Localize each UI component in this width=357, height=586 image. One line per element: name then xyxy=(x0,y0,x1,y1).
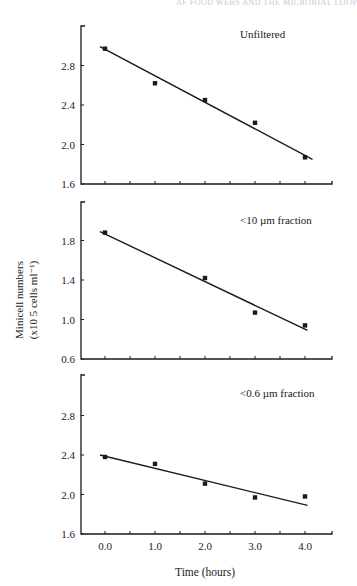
y-tick-label: 1.6 xyxy=(61,528,75,540)
x-tick-label: 2.0 xyxy=(198,540,212,552)
y-tick-label: 2.4 xyxy=(61,449,75,461)
x-tick-label: 4.0 xyxy=(298,540,312,552)
panel-3: 1.62.02.42.8<0.6 µm fraction xyxy=(61,375,332,540)
panel-2: 0.61.01.41.8<10 µm fraction xyxy=(61,202,332,365)
data-point-marker xyxy=(253,495,257,499)
panel-title: <10 µm fraction xyxy=(240,214,312,226)
data-point-marker xyxy=(103,47,107,51)
data-point-marker xyxy=(203,276,207,280)
y-tick-label: 2.8 xyxy=(61,410,75,422)
data-point-marker xyxy=(303,323,307,327)
data-point-marker xyxy=(253,310,257,314)
data-point-marker xyxy=(153,81,157,85)
data-point-marker xyxy=(303,494,307,498)
y-tick-label: 2.0 xyxy=(61,489,75,501)
panel-title: Unfiltered xyxy=(240,28,286,40)
y-tick-label: 0.6 xyxy=(61,353,75,365)
y-tick-label: 2.8 xyxy=(61,60,75,72)
data-point-marker xyxy=(303,155,307,159)
panel-title: <0.6 µm fraction xyxy=(240,387,315,399)
x-tick-label: 3.0 xyxy=(248,540,262,552)
x-tick-label: 0.0 xyxy=(98,540,112,552)
y-tick-label: 2.4 xyxy=(61,99,75,111)
data-point-marker xyxy=(153,462,157,466)
data-point-marker xyxy=(103,455,107,459)
data-point-marker xyxy=(253,121,257,125)
trend-line xyxy=(100,455,308,505)
y-axis-label-line1: Minicell numbers xyxy=(12,261,26,339)
y-tick-label: 2.0 xyxy=(61,139,75,151)
y-axis-label-line2: (x10 5 cells ml⁻¹) xyxy=(26,261,40,339)
y-tick-label: 1.0 xyxy=(61,314,75,326)
data-point-marker xyxy=(203,98,207,102)
axis-lines xyxy=(81,26,332,184)
x-axis-label: Time (hours) xyxy=(175,566,235,578)
data-point-marker xyxy=(103,230,107,234)
y-tick-label: 1.4 xyxy=(61,274,75,286)
trend-line xyxy=(100,47,313,160)
data-point-marker xyxy=(203,481,207,485)
panel-1: 1.62.02.42.8Unfiltered xyxy=(61,26,332,190)
trend-line xyxy=(100,232,308,331)
y-tick-label: 1.8 xyxy=(61,235,75,247)
x-tick-label: 1.0 xyxy=(148,540,162,552)
y-tick-label: 1.6 xyxy=(61,178,75,190)
